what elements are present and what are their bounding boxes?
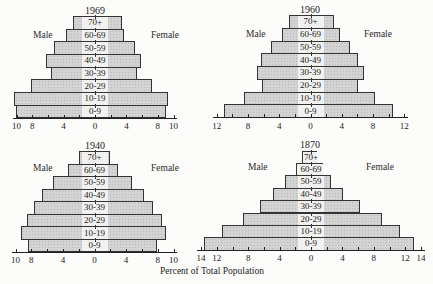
center-tick xyxy=(311,199,312,203)
x-tick-label: 8 xyxy=(364,253,384,263)
center-tick xyxy=(311,236,312,240)
x-tick xyxy=(342,247,343,251)
x-tick xyxy=(280,247,281,251)
male-label: Male xyxy=(248,162,268,173)
x-tick xyxy=(405,247,406,251)
center-tick xyxy=(311,212,312,216)
x-tick xyxy=(421,247,422,251)
x-tick-label: 8 xyxy=(238,253,258,263)
x-tick xyxy=(295,247,296,251)
x-tick-label: 14 xyxy=(411,253,431,263)
chart-title: 1870 xyxy=(290,139,330,150)
x-tick xyxy=(264,247,265,251)
x-tick xyxy=(248,247,249,251)
x-tick xyxy=(374,247,375,251)
female-label: Female xyxy=(366,162,394,173)
center-tick xyxy=(311,187,312,191)
x-tick xyxy=(311,247,312,251)
x-tick xyxy=(358,247,359,251)
x-axis-caption: Percent of Total Population xyxy=(160,266,264,277)
x-tick xyxy=(233,247,234,251)
x-tick-label: 4 xyxy=(332,253,352,263)
x-tick xyxy=(390,247,391,251)
x-tick xyxy=(327,247,328,251)
x-tick xyxy=(217,247,218,251)
center-tick xyxy=(311,150,312,154)
x-tick xyxy=(201,247,202,251)
center-tick xyxy=(311,224,312,228)
x-tick-label: 12 xyxy=(207,253,227,263)
center-tick xyxy=(311,174,312,178)
center-tick xyxy=(311,162,312,166)
pyramid-1870: 1870 Male Female 70+60-6950-5940-4930-39… xyxy=(0,0,433,284)
x-tick-label: 4 xyxy=(270,253,290,263)
x-tick-label: 0 xyxy=(301,253,321,263)
